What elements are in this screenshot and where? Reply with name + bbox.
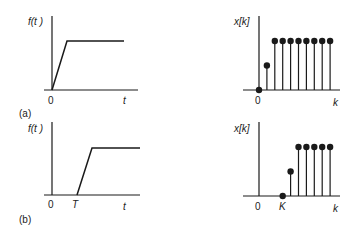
sample-dot xyxy=(287,38,293,44)
x-axis-label: k xyxy=(333,203,339,214)
figure: f(t ) 0 t (a) x[k] 0 k f(t ) 0 T t (b) xyxy=(0,0,361,231)
sample-dot xyxy=(256,87,262,93)
sample-dot xyxy=(327,38,333,44)
sample-dot xyxy=(319,38,325,44)
panel-b-continuous-plot: f(t ) 0 T t (b) xyxy=(19,122,140,225)
sample-dot xyxy=(280,38,286,44)
x-axis-label: t xyxy=(123,95,127,106)
sample-dot xyxy=(280,193,286,199)
panel-b-discrete-plot: x[k] 0 K k xyxy=(233,122,340,214)
y-axis-label: x[k] xyxy=(233,16,250,27)
sample-dot xyxy=(311,38,317,44)
y-axis-label: f(t ) xyxy=(28,16,43,27)
sample-dot xyxy=(311,144,317,150)
x-axis-label: t xyxy=(123,201,127,212)
y-axis-label: f(t ) xyxy=(28,123,43,134)
panel-caption: (b) xyxy=(19,214,31,225)
sample-dot xyxy=(303,38,309,44)
origin-label: 0 xyxy=(255,201,261,212)
sample-dot xyxy=(264,62,270,68)
delayed-ramp-curve xyxy=(77,148,140,195)
sample-dot xyxy=(319,144,325,150)
panel-a-continuous-plot: f(t ) 0 t (a) xyxy=(19,16,138,119)
sample-dot xyxy=(272,38,278,44)
y-axis-label: x[k] xyxy=(233,123,250,134)
origin-label: 0 xyxy=(48,199,54,210)
sample-dot xyxy=(287,168,293,174)
panel-a-discrete-plot: x[k] 0 k xyxy=(233,16,340,108)
stem-series xyxy=(256,38,333,93)
shift-label: T xyxy=(72,199,79,210)
panel-caption: (a) xyxy=(19,108,31,119)
sample-dot xyxy=(295,144,301,150)
sample-dot xyxy=(303,144,309,150)
x-axis-label: k xyxy=(333,97,339,108)
shift-label: K xyxy=(279,201,287,212)
origin-label: 0 xyxy=(255,95,261,106)
sample-dot xyxy=(295,38,301,44)
sample-dot xyxy=(327,144,333,150)
ramp-curve xyxy=(52,41,124,90)
stem-series xyxy=(280,144,334,199)
origin-label: 0 xyxy=(48,95,54,106)
